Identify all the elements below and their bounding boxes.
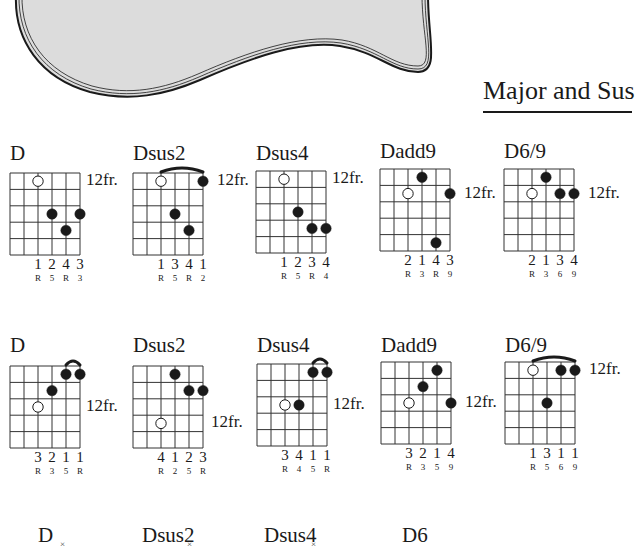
finger-dot	[75, 369, 85, 379]
chord-name: Dsus2	[133, 333, 186, 358]
chord-name: Dsus4	[257, 333, 310, 358]
interval-degree: R	[182, 273, 196, 283]
interval-degrees: R5R2	[154, 273, 210, 283]
interval-degree: 9	[568, 462, 582, 472]
finger-number: 1	[539, 252, 553, 269]
finger-numbers: 4123	[154, 449, 210, 466]
finger-numbers: 1311	[526, 445, 582, 462]
interval-degree: R	[277, 271, 291, 281]
finger-dot	[170, 369, 180, 379]
fretboard-grid	[132, 172, 204, 256]
fretboard-grid	[9, 365, 81, 449]
finger-number: 3	[73, 256, 87, 273]
interval-degree: R	[196, 466, 210, 476]
finger-numbers: 1243	[31, 256, 87, 273]
root-marker-open	[280, 400, 290, 410]
finger-number: 3	[168, 256, 182, 273]
chord-name: D6/9	[504, 139, 546, 164]
muted-string-mark: ×	[311, 539, 316, 547]
finger-dot	[61, 369, 71, 379]
finger-number: 2	[45, 256, 59, 273]
finger-number: 4	[567, 252, 581, 269]
chord-name: D	[38, 523, 53, 547]
finger-dot	[541, 172, 551, 182]
interval-degree: 6	[553, 269, 567, 279]
interval-degree: 5	[540, 462, 554, 472]
finger-number: 1	[568, 445, 582, 462]
finger-number: 4	[292, 447, 306, 464]
finger-number: 3	[278, 447, 292, 464]
finger-dot	[322, 367, 332, 377]
title-underline	[483, 111, 632, 113]
barre-arc	[161, 168, 203, 172]
finger-numbers: 3211	[31, 449, 87, 466]
fretboard-grid	[256, 363, 328, 447]
fret-position-label: 12fr.	[332, 168, 364, 188]
interval-degree: 2	[196, 273, 210, 283]
finger-number: 1	[154, 256, 168, 273]
finger-number: 1	[415, 252, 429, 269]
fretboard-grid	[504, 361, 576, 445]
interval-degrees: R3R9	[401, 269, 457, 279]
interval-degree: 4	[319, 271, 333, 281]
root-marker-open	[527, 188, 537, 198]
interval-degree: 9	[567, 269, 581, 279]
interval-degree: R	[320, 464, 334, 474]
finger-number: 2	[525, 252, 539, 269]
finger-dot	[555, 188, 565, 198]
interval-degrees: R359	[402, 462, 458, 472]
finger-dot	[446, 398, 456, 408]
finger-number: 1	[277, 254, 291, 271]
interval-degree: R	[401, 269, 415, 279]
finger-number: 3	[305, 254, 319, 271]
finger-number: 4	[182, 256, 196, 273]
interval-degree: 5	[306, 464, 320, 474]
finger-number: 1	[320, 447, 334, 464]
finger-numbers: 2134	[525, 252, 581, 269]
finger-number: 3	[31, 449, 45, 466]
finger-dot	[47, 385, 57, 395]
finger-dot	[198, 176, 208, 186]
chord-name: Dsus2	[133, 141, 186, 166]
finger-numbers: 1234	[277, 254, 333, 271]
interval-degree: R	[402, 462, 416, 472]
finger-dot	[47, 209, 57, 219]
interval-degree: 3	[45, 466, 59, 476]
chord-name: Dadd9	[380, 139, 436, 164]
finger-dot	[61, 225, 71, 235]
interval-degree: 3	[416, 462, 430, 472]
finger-number: 1	[430, 445, 444, 462]
finger-number: 1	[31, 256, 45, 273]
chord-name: D	[10, 333, 25, 358]
finger-numbers: 3214	[402, 445, 458, 462]
finger-number: 1	[73, 449, 87, 466]
muted-string-mark: ×	[60, 539, 65, 547]
finger-dot	[184, 225, 194, 235]
chord-name: Dsus4	[256, 141, 309, 166]
finger-dot	[198, 385, 208, 395]
finger-number: 4	[59, 256, 73, 273]
barre-arc	[66, 361, 80, 365]
fret-position-label: 12fr.	[86, 170, 118, 190]
fret-position-label: 12fr.	[211, 412, 243, 432]
finger-numbers: 3411	[278, 447, 334, 464]
fret-position-label: 12fr.	[464, 183, 496, 203]
interval-degree: R	[31, 466, 45, 476]
root-marker-open	[156, 418, 166, 428]
interval-degrees: R569	[526, 462, 582, 472]
finger-numbers: 1341	[154, 256, 210, 273]
interval-degree: 5	[291, 271, 305, 281]
interval-degree: R	[73, 466, 87, 476]
interval-degree: 5	[182, 466, 196, 476]
finger-number: 2	[45, 449, 59, 466]
interval-degree: R	[525, 269, 539, 279]
finger-dot	[308, 367, 318, 377]
interval-degree: 5	[45, 273, 59, 283]
finger-number: 4	[319, 254, 333, 271]
fretboard-grid	[9, 172, 81, 256]
interval-degree: 9	[443, 269, 457, 279]
chord-name: D6/9	[505, 333, 547, 358]
interval-degree: R	[31, 273, 45, 283]
root-marker-open	[403, 188, 413, 198]
interval-degrees: R45R	[278, 464, 334, 474]
